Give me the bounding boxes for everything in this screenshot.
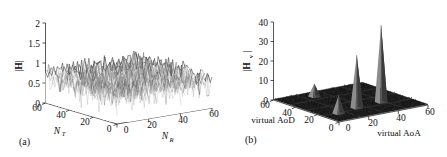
panel-a-xaxis-label-base: N: [161, 131, 169, 141]
panel-a-yaxis-label-base: N: [53, 126, 61, 136]
panel-a-xaxis-label: N R: [161, 131, 174, 143]
panel-a-yaxis-label-sub: T: [62, 130, 67, 137]
panel-b-xtick-3: 60: [425, 107, 435, 117]
panel-b-xtick-1: 20: [368, 118, 378, 128]
panel-b-tag: (b): [245, 134, 257, 146]
panel-b-ytick-0: 60: [260, 100, 270, 110]
panel-b-surface: [274, 25, 429, 121]
panel-b-zaxis-label: |H v |: [242, 50, 254, 71]
panel-b-xaxis-label: virtual AoA: [377, 128, 421, 138]
panel-a-ztick-1: 1.5: [28, 39, 40, 49]
panel-b-ztick-3: 10: [259, 76, 269, 86]
panel-b-plot: 40 30 20 10 0 |H v | 60 40 20 0 virtual …: [223, 0, 447, 157]
panel-b: 40 30 20 10 0 |H v | 60 40 20 0 virtual …: [223, 0, 447, 157]
panel-b-xtick-2: 40: [396, 113, 406, 123]
panel-a-tag: (a): [19, 136, 30, 148]
panel-a-ztick-2: 1: [35, 59, 40, 69]
figure-container: 2 1.5 1 0.5 0 |H| 60 40 20 0 N T 0 20 40…: [0, 0, 447, 157]
panel-a-ztick-0: 2: [35, 19, 40, 29]
panel-a-xaxis-label-sub: R: [168, 136, 173, 143]
panel-b-zaxis-label-tail: |: [242, 50, 252, 52]
panel-a-ztick-3: 0.5: [28, 79, 40, 89]
panel-b-ztick-1: 30: [259, 37, 269, 47]
panel-a-xtick-1: 20: [147, 120, 157, 130]
panel-b-zaxis-label-sub: v: [247, 54, 254, 58]
panel-b-xtick-0: 0: [346, 123, 351, 133]
panel-b-ytick-2: 20: [304, 115, 314, 125]
panel-b-yaxis-label: virtual AoD: [251, 115, 295, 125]
panel-a: 2 1.5 1 0.5 0 |H| 60 40 20 0 N T 0 20 40…: [0, 0, 224, 157]
panel-a-yaxis-label: N T: [53, 126, 67, 138]
panel-a-ytick-0: 60: [32, 103, 42, 113]
panel-a-plot: 2 1.5 1 0.5 0 |H| 60 40 20 0 N T 0 20 40…: [0, 0, 224, 157]
panel-b-ztick-2: 20: [259, 57, 269, 67]
panel-a-z-ticks: [43, 23, 46, 103]
panel-a-xtick-3: 60: [209, 109, 219, 119]
panel-b-z-ticks: [271, 22, 274, 100]
panel-a-xtick-0: 0: [124, 125, 129, 135]
panel-a-zaxis-label: |H|: [14, 60, 24, 72]
panel-a-surface: [46, 51, 213, 124]
panel-b-ztick-0: 40: [259, 18, 269, 28]
panel-a-xtick-2: 40: [178, 115, 188, 125]
panel-b-ytick-3: 0: [329, 123, 334, 133]
panel-b-zaxis-label-base: |H: [242, 62, 252, 72]
panel-a-ytick-2: 20: [80, 117, 90, 127]
panel-a-ytick-1: 40: [56, 110, 66, 120]
panel-a-ytick-3: 0: [107, 124, 112, 134]
